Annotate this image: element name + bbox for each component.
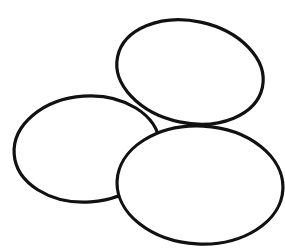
eggs-drawing [0, 0, 285, 252]
